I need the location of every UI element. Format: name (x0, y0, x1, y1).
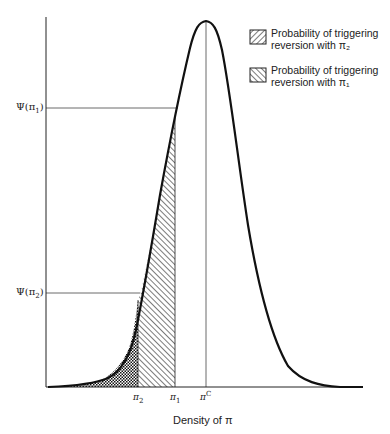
legend-item-pi2: Probability of triggering reversion with… (271, 27, 378, 51)
y-label-psi-pi1: Ψ(π1) (16, 101, 44, 115)
legend-item-pi2-line2: reversion with π₂ (271, 39, 378, 51)
legend-item-pi1: Probability of triggering reversion with… (271, 64, 378, 88)
x-tick-pi1: π1 (170, 392, 180, 405)
legend-item-pi1-line1: Probability of triggering (271, 64, 378, 76)
x-tick-pic: πC (200, 390, 211, 402)
legend-item-pi1-line2: reversion with π₁ (271, 76, 378, 88)
x-axis-title: Density of π (173, 414, 233, 426)
legend-item-pi2-line1: Probability of triggering (271, 27, 378, 39)
x-tick-pi2: π2 (133, 392, 143, 405)
region-pi2-crosshatch (60, 300, 138, 387)
region-pi1-hatch (138, 120, 175, 387)
y-label-psi-pi2: Ψ(π2) (16, 286, 44, 300)
legend-swatch-pi1 (250, 68, 266, 82)
legend-swatch-pi2 (250, 30, 266, 44)
